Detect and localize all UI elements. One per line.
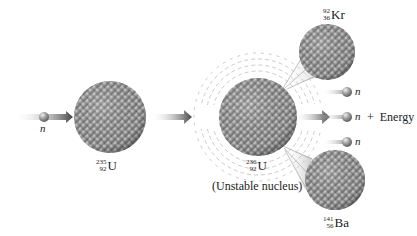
incoming-neutron-label: n <box>40 123 46 134</box>
uranium-236-label: 23692 U <box>246 158 267 174</box>
element-symbol: U <box>108 158 117 174</box>
energy-label: + Energy <box>367 111 414 123</box>
element-symbol: U <box>258 158 267 174</box>
released-neutrons <box>322 87 352 147</box>
released-neutron-label-2: n <box>355 111 361 122</box>
released-neutron-label-1: n <box>355 86 361 97</box>
atomic-number: 56 <box>327 223 334 230</box>
krypton-92-label: 9236 Kr <box>323 7 345 23</box>
atomic-number: 36 <box>323 15 330 22</box>
barium-141-label: 14156 Ba <box>323 215 349 231</box>
uranium-235-nucleus <box>74 81 146 153</box>
unstable-nucleus-caption: (Unstable nucleus) <box>212 180 302 192</box>
krypton-92-nucleus <box>299 24 355 80</box>
uranium-236-nucleus <box>219 78 297 156</box>
element-symbol: Kr <box>331 7 345 23</box>
reaction-arrow <box>150 110 192 124</box>
barium-141-nucleus <box>305 150 365 210</box>
released-neutron-label-3: n <box>355 136 361 147</box>
atomic-number: 92 <box>250 166 257 173</box>
atomic-number: 92 <box>100 166 107 173</box>
uranium-235-label: 23592 U <box>96 158 117 174</box>
fission-diagram: n 23592 U 23692 U (Unstable nucleus) 923… <box>0 0 417 236</box>
element-symbol: Ba <box>335 215 349 231</box>
